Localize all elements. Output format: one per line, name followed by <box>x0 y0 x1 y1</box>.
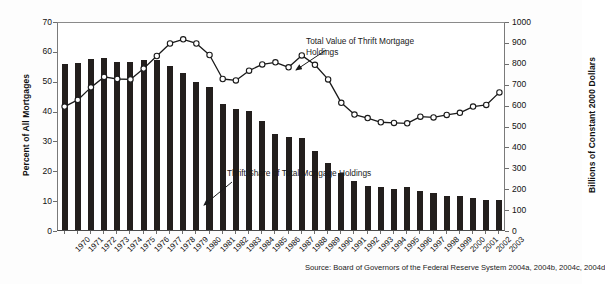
y-tick-right-800: 800 <box>512 58 546 68</box>
line-marker-2000 <box>457 110 462 115</box>
line-marker-1981 <box>207 52 212 57</box>
y-tick-right-500: 500 <box>512 121 546 131</box>
line-marker-1980 <box>194 41 199 46</box>
line-marker-1971 <box>75 97 80 102</box>
line-marker-1991 <box>339 100 344 105</box>
y-tick-right-1000: 1000 <box>512 17 546 27</box>
y-tick-right-700: 700 <box>512 79 546 89</box>
line-marker-1986 <box>273 60 278 65</box>
annotation-thrift-share-label: Thrift Share of Total Mortgage Holdings <box>227 168 437 179</box>
x-tickmark-1988 <box>301 231 302 234</box>
x-tickmark-1990 <box>327 231 328 234</box>
line-marker-1984 <box>246 68 251 73</box>
y-tick-left-60: 60 <box>24 46 52 56</box>
x-tickmark-1999 <box>446 231 447 234</box>
line-marker-2001 <box>470 104 475 109</box>
line-marker-1994 <box>378 120 383 125</box>
y-tick-left-70: 70 <box>24 17 52 27</box>
line-marker-1998 <box>431 115 436 120</box>
line-marker-2002 <box>484 102 489 107</box>
x-tickmark-1970 <box>64 231 65 234</box>
line-marker-1993 <box>365 115 370 120</box>
line-marker-1992 <box>352 112 357 117</box>
y-tick-right-100: 100 <box>512 205 546 215</box>
x-tickmark-1992 <box>353 231 354 234</box>
x-tickmark-1989 <box>314 231 315 234</box>
line-marker-1999 <box>444 112 449 117</box>
x-tickmark-1973 <box>103 231 104 234</box>
y-axis-right-title: Billions of Constant 2000 Dollars <box>587 20 597 230</box>
y-tick-right-900: 900 <box>512 37 546 47</box>
y-tick-right-200: 200 <box>512 184 546 194</box>
x-tickmark-1987 <box>288 231 289 234</box>
line-marker-1973 <box>101 74 106 79</box>
x-tickmark-1981 <box>209 231 210 234</box>
y-axis-left-title: Percent of All Mortgages <box>21 45 31 205</box>
line-marker-2003 <box>497 90 502 95</box>
y-tick-right-600: 600 <box>512 100 546 110</box>
x-tickmark-1982 <box>222 231 223 234</box>
x-tickmark-1997 <box>419 231 420 234</box>
y-tick-left-0: 0 <box>24 226 52 236</box>
line-marker-1997 <box>418 114 423 119</box>
line-marker-1976 <box>141 66 146 71</box>
x-tickmark-1978 <box>169 231 170 234</box>
y-tick-right-400: 400 <box>512 142 546 152</box>
x-tickmark-2000 <box>459 231 460 234</box>
x-tickmark-1985 <box>261 231 262 234</box>
line-marker-1982 <box>220 76 225 81</box>
y-tick-left-10: 10 <box>24 196 52 206</box>
line-marker-1983 <box>233 78 238 83</box>
x-tickmark-1998 <box>433 231 434 234</box>
y-tick-right-0: 0 <box>512 226 546 236</box>
y-tick-left-50: 50 <box>24 76 52 86</box>
y-tick-right-300: 300 <box>512 163 546 173</box>
x-tickmark-1983 <box>235 231 236 234</box>
line-marker-1974 <box>115 76 120 81</box>
plot-area <box>57 22 505 231</box>
line-marker-1979 <box>180 37 185 42</box>
x-tickmark-1972 <box>90 231 91 234</box>
x-tickmark-2003 <box>498 231 499 234</box>
line-marker-1972 <box>88 85 93 90</box>
x-tickmark-1971 <box>77 231 78 234</box>
x-tickmark-1984 <box>248 231 249 234</box>
x-tickmark-1980 <box>195 231 196 234</box>
x-tickmark-1993 <box>367 231 368 234</box>
line-marker-1996 <box>404 121 409 126</box>
x-tickmark-1995 <box>393 231 394 234</box>
line-marker-1978 <box>167 41 172 46</box>
line-marker-1975 <box>128 77 133 82</box>
line-series-layer <box>58 23 506 232</box>
x-tickmark-1977 <box>156 231 157 234</box>
x-tickmark-1976 <box>143 231 144 234</box>
x-tickmark-2001 <box>472 231 473 234</box>
x-tickmark-1975 <box>129 231 130 234</box>
line-marker-1995 <box>391 120 396 125</box>
y-tickmark-left-0 <box>53 231 57 232</box>
x-tickmark-1986 <box>274 231 275 234</box>
line-marker-1970 <box>62 104 67 109</box>
line-marker-1985 <box>260 62 265 67</box>
annotation-arrow-line <box>290 48 330 78</box>
x-tickmark-1994 <box>380 231 381 234</box>
source-note: Source: Board of Governors of the Federa… <box>305 263 605 272</box>
y-tick-left-30: 30 <box>24 136 52 146</box>
y-tick-left-40: 40 <box>24 106 52 116</box>
x-tickmark-1996 <box>406 231 407 234</box>
x-tickmark-1979 <box>182 231 183 234</box>
line-marker-1977 <box>154 53 159 58</box>
x-tickmark-2002 <box>485 231 486 234</box>
annotation-arrow-bars <box>196 180 236 212</box>
x-tickmark-1974 <box>116 231 117 234</box>
x-tickmark-1991 <box>340 231 341 234</box>
y-tick-left-20: 20 <box>24 166 52 176</box>
